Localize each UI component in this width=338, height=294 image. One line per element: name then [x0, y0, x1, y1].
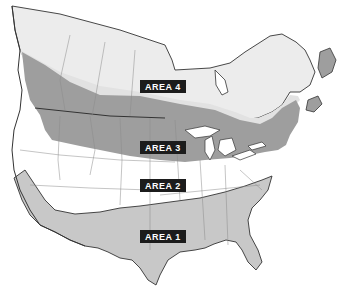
area3-label: AREA 3	[140, 141, 186, 154]
area4-label: AREA 4	[140, 80, 186, 93]
area1-label: AREA 1	[140, 230, 186, 243]
area2-label: AREA 2	[140, 179, 186, 192]
